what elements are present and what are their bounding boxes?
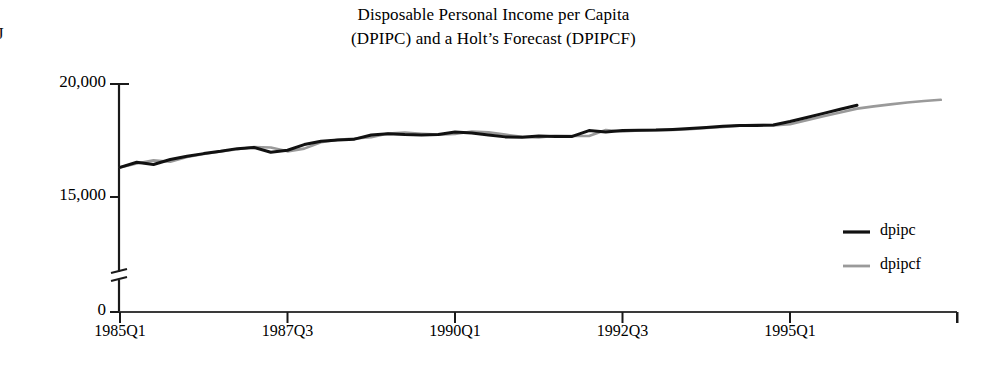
x-tick-label-1985Q1: 1985Q1 [60, 322, 180, 340]
legend-label-dpipcf: dpipcf [880, 255, 921, 273]
plot-area [0, 0, 987, 374]
x-tick-label-1990Q1: 1990Q1 [395, 322, 515, 340]
y-tick-label-0: 0 [16, 300, 106, 320]
x-tick-label-1992Q3: 1992Q3 [563, 322, 683, 340]
legend-swatches [843, 232, 870, 266]
legend-label-dpipc: dpipc [880, 221, 916, 239]
x-tick-label-1987Q3: 1987Q3 [228, 322, 348, 340]
chart-figure: J Disposable Personal Income per Capita … [0, 0, 987, 374]
data-series [120, 100, 941, 168]
axes [110, 84, 958, 323]
x-tick-label-1995Q1: 1995Q1 [730, 322, 850, 340]
y-tick-label-15000: 15,000 [16, 185, 106, 205]
y-tick-label-20000: 20,000 [16, 72, 106, 92]
